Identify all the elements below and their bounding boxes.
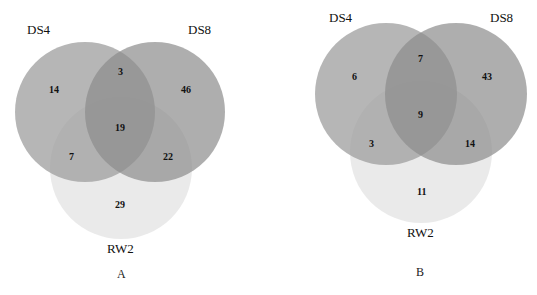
- count-ds4-only: 6: [352, 71, 357, 82]
- count-ds8-rw2: 14: [465, 138, 475, 149]
- venn-panel-b: DS4 DS8 RW2 6 7 43 9 3 14 11 B: [315, 10, 527, 279]
- count-ds4-ds8: 7: [418, 53, 423, 64]
- count-all: 19: [115, 122, 125, 133]
- set-label-rw2: RW2: [107, 241, 134, 256]
- count-ds8-only: 43: [482, 71, 492, 82]
- venn-panel-a: DS4 DS8 RW2 14 3 46 19 7 22 29 A: [15, 22, 225, 281]
- count-ds8-only: 46: [181, 84, 191, 95]
- count-all: 9: [418, 109, 423, 120]
- set-label-ds4: DS4: [27, 22, 51, 37]
- circle-ds8: [385, 23, 527, 165]
- set-label-ds8: DS8: [490, 10, 513, 25]
- count-rw2-only: 11: [417, 186, 426, 197]
- set-label-rw2: RW2: [407, 225, 434, 240]
- circle-ds8: [85, 42, 225, 182]
- count-ds4-rw2: 3: [369, 138, 374, 149]
- set-label-ds8: DS8: [188, 22, 211, 37]
- count-ds4-ds8: 3: [118, 66, 123, 77]
- count-rw2-only: 29: [115, 199, 125, 210]
- count-ds8-rw2: 22: [163, 151, 173, 162]
- panel-label-a: A: [117, 267, 126, 281]
- count-ds4-only: 14: [49, 84, 59, 95]
- panel-label-b: B: [416, 265, 424, 279]
- venn-figure: DS4 DS8 RW2 14 3 46 19 7 22 29 A DS4 DS8…: [0, 0, 537, 295]
- count-ds4-rw2: 7: [69, 151, 74, 162]
- set-label-ds4: DS4: [329, 10, 353, 25]
